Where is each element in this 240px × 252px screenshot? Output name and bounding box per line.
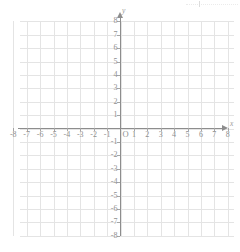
x-axis-tick-label: -6 xyxy=(33,131,47,139)
x-axis-name-label: x xyxy=(230,120,233,128)
scan-artifact-line xyxy=(186,4,238,6)
y-axis-tick-label: -3 xyxy=(104,165,118,173)
gridline-horizontal xyxy=(20,196,234,197)
gridline-horizontal xyxy=(20,75,234,76)
y-axis-tick-label: 4 xyxy=(104,71,118,79)
gridline-horizontal xyxy=(20,236,234,237)
y-axis-tick-label: 2 xyxy=(104,98,118,106)
gridline-horizontal xyxy=(20,222,234,223)
x-axis-tick-label: 4 xyxy=(167,131,181,139)
y-axis-name-label: y xyxy=(122,7,125,15)
gridline-horizontal xyxy=(20,21,234,22)
x-axis-tick-label: 5 xyxy=(181,131,195,139)
y-axis-tick-label: 8 xyxy=(104,17,118,25)
origin-label: O xyxy=(123,130,129,138)
y-axis-tick-label: 7 xyxy=(104,31,118,39)
y-axis-tick-label: -4 xyxy=(104,178,118,186)
x-axis-tick-label: -7 xyxy=(20,131,34,139)
gridline-horizontal xyxy=(20,209,234,210)
x-axis-tick-label: 7 xyxy=(207,131,221,139)
gridline-horizontal xyxy=(20,102,234,103)
gridline-horizontal xyxy=(20,48,234,49)
gridline-horizontal xyxy=(20,182,234,183)
y-axis-tick-label: -8 xyxy=(104,232,118,240)
gridline-horizontal xyxy=(20,88,234,89)
x-axis-tick-label: 2 xyxy=(140,131,154,139)
gridline-horizontal xyxy=(20,35,234,36)
y-axis-tick-label: -5 xyxy=(104,192,118,200)
y-axis-tick-label: 1 xyxy=(104,111,118,119)
gridline-horizontal xyxy=(20,169,234,170)
y-axis-tick-label: -1 xyxy=(104,138,118,146)
x-axis-tick-label: -4 xyxy=(60,131,74,139)
y-axis-tick-label: 3 xyxy=(104,84,118,92)
x-axis-tick-label: 3 xyxy=(154,131,168,139)
x-axis-tick-label: -5 xyxy=(47,131,61,139)
x-axis-tick-label: -8 xyxy=(6,131,20,139)
y-axis-tick-label: -7 xyxy=(104,218,118,226)
x-axis-tick-label: -2 xyxy=(87,131,101,139)
scan-artifact-tick xyxy=(199,1,200,7)
gridline-horizontal xyxy=(20,115,234,116)
gridline-horizontal xyxy=(20,62,234,63)
gridline-horizontal xyxy=(20,142,234,143)
y-axis-tick-label: 5 xyxy=(104,58,118,66)
x-axis-tick-label: 6 xyxy=(194,131,208,139)
y-axis-tick-label: 6 xyxy=(104,44,118,52)
x-axis-tick-label: -3 xyxy=(73,131,87,139)
coordinate-plane-canvas: -8-7-6-5-4-3-2-11234567887654321-1-2-3-4… xyxy=(0,0,240,252)
y-axis-line xyxy=(120,17,121,236)
gridline-horizontal xyxy=(20,155,234,156)
y-axis-tick-label: -6 xyxy=(104,205,118,213)
y-axis-tick-label: -2 xyxy=(104,151,118,159)
x-axis-tick-label: 8 xyxy=(221,131,235,139)
x-axis-tick-label: 1 xyxy=(127,131,141,139)
